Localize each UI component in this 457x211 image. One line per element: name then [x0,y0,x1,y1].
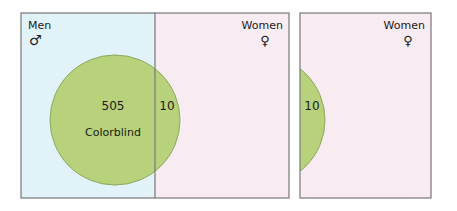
left-panel: Men ♂ Women ♀ 505 Colorblind 10 [21,13,289,198]
women-label: Women [242,19,283,32]
women-only-colorblind-count: 10 [304,99,319,113]
men-label: Men [28,19,51,32]
women-only-label: Women [384,19,425,32]
venn-diagram: Men ♂ Women ♀ 505 Colorblind 10 Women ♀ … [0,0,457,211]
male-symbol-icon: ♂ [29,32,42,48]
colorblind-circle [50,55,180,185]
women-colorblind-count: 10 [159,99,174,113]
female-symbol-icon-right: ♀ [403,33,413,48]
female-symbol-icon: ♀ [260,33,270,48]
men-colorblind-count: 505 [102,99,125,113]
colorblind-label: Colorblind [85,126,141,139]
